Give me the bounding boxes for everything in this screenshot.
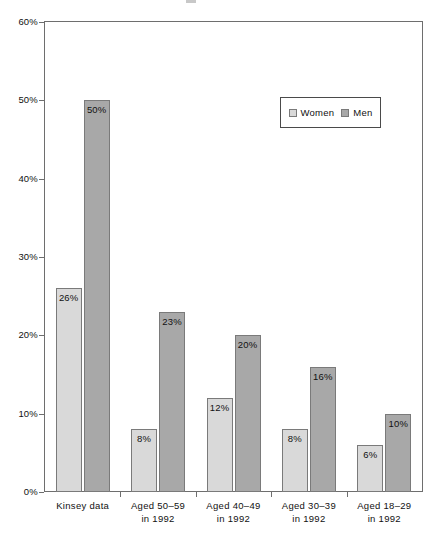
x-axis-label-1: Kinsey data <box>45 499 120 512</box>
bar-chart: 0%10%20%30%40%50%60% 26%50%8%23%12%20%8%… <box>0 0 444 538</box>
legend-label-women: Women <box>301 108 335 118</box>
x-axis-label-5: Aged 18–29in 1992 <box>347 499 422 525</box>
x-axis-label-line1: Aged 50–59 <box>120 499 195 512</box>
bar-value-label: 50% <box>85 104 109 115</box>
legend: Women Men <box>280 97 381 128</box>
bar-men-3: 20% <box>235 335 261 492</box>
bar-value-label: 23% <box>160 316 184 327</box>
bar-men-5: 10% <box>385 414 411 492</box>
bar-women-2: 8% <box>131 429 157 492</box>
bar-value-label: 12% <box>208 402 232 413</box>
y-axis-tick-mark <box>39 492 44 493</box>
x-axis-group-tick <box>196 492 197 497</box>
x-axis-label-line1: Aged 30–39 <box>271 499 346 512</box>
y-axis-tick-label: 0% <box>4 487 38 497</box>
y-axis: 0%10%20%30%40%50%60% <box>0 0 38 538</box>
legend-item-women: Women <box>289 108 335 118</box>
y-axis-tick-mark <box>39 257 44 258</box>
x-axis-label-line2: in 1992 <box>120 512 195 525</box>
y-axis-tick-mark <box>39 22 44 23</box>
legend-swatch-men-icon <box>341 109 349 117</box>
y-axis-tick-label: 60% <box>4 17 38 27</box>
bar-women-1: 26% <box>56 288 82 492</box>
x-axis-label-line1: Aged 40–49 <box>196 499 271 512</box>
x-axis-label-2: Aged 50–59in 1992 <box>120 499 195 525</box>
y-axis-tick-label: 20% <box>4 330 38 340</box>
legend-label-men: Men <box>353 108 372 118</box>
x-axis-label-line2: in 1992 <box>196 512 271 525</box>
y-axis-tick-mark <box>39 100 44 101</box>
y-axis-tick-label: 10% <box>4 409 38 419</box>
x-axis-label-3: Aged 40–49in 1992 <box>196 499 271 525</box>
bar-value-label: 26% <box>57 292 81 303</box>
x-axis-label-4: Aged 30–39in 1992 <box>271 499 346 525</box>
bars-layer: 26%50%8%23%12%20%8%16%6%10% <box>45 22 422 492</box>
y-axis-tick-mark <box>39 335 44 336</box>
bar-men-2: 23% <box>159 312 185 492</box>
bar-value-label: 10% <box>386 418 410 429</box>
x-axis-label-line2: in 1992 <box>347 512 422 525</box>
y-axis-tick-label: 40% <box>4 174 38 184</box>
bar-women-3: 12% <box>207 398 233 492</box>
y-axis-tick-mark <box>39 414 44 415</box>
y-axis-tick-label: 50% <box>4 95 38 105</box>
bar-men-1: 50% <box>84 100 110 492</box>
x-axis-label-line2: in 1992 <box>271 512 346 525</box>
y-axis-tick-mark <box>39 179 44 180</box>
bar-women-5: 6% <box>357 445 383 492</box>
legend-swatch-women-icon <box>289 109 297 117</box>
bar-value-label: 16% <box>311 371 335 382</box>
bar-men-4: 16% <box>310 367 336 492</box>
x-axis-group-tick <box>347 492 348 497</box>
cropped-title-artifact <box>186 0 196 3</box>
x-axis-group-tick <box>271 492 272 497</box>
x-axis-label-line1: Kinsey data <box>45 499 120 512</box>
bar-value-label: 8% <box>132 433 156 444</box>
bar-value-label: 6% <box>358 449 382 460</box>
x-axis-label-line1: Aged 18–29 <box>347 499 422 512</box>
legend-item-men: Men <box>341 108 372 118</box>
bar-value-label: 20% <box>236 339 260 350</box>
bar-women-4: 8% <box>282 429 308 492</box>
y-axis-tick-label: 30% <box>4 252 38 262</box>
bar-value-label: 8% <box>283 433 307 444</box>
x-axis-group-tick <box>120 492 121 497</box>
